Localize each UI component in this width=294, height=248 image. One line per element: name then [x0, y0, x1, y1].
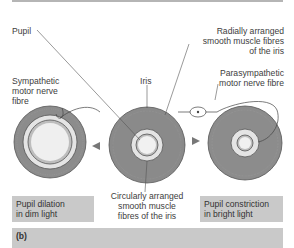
eye-dilated — [14, 106, 100, 178]
eye-normal — [109, 107, 185, 183]
caption-dilation: Pupil dilation in dim light — [12, 196, 94, 222]
arrow-right-icon — [192, 137, 200, 145]
label-pupil: Pupil — [12, 26, 31, 36]
label-circular-fibres: Circularly arranged smooth muscle fibres… — [100, 191, 194, 221]
panel-label-bar: (b) — [12, 228, 283, 248]
label-radial-fibres: Radially arranged smooth muscle fibres o… — [188, 26, 284, 56]
label-parasympathetic: Parasympathetic motor nerve fibre — [188, 68, 284, 88]
label-iris: Iris — [140, 76, 151, 86]
arrow-left-icon — [92, 142, 100, 150]
label-sympathetic: Sympathetic motor nerve fibre — [12, 76, 59, 106]
caption-constriction: Pupil constriction in bright light — [200, 196, 283, 222]
panel-label: (b) — [16, 231, 27, 241]
